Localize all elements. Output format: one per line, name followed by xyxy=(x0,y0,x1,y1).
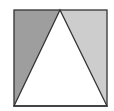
geometry-diagram xyxy=(0,0,114,111)
